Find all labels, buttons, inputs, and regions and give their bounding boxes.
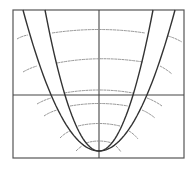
- parabola-diagram: [0, 0, 186, 169]
